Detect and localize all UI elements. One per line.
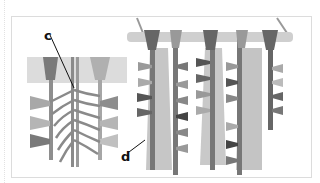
label-d: d — [121, 150, 130, 163]
left-detail — [27, 35, 127, 167]
label-c: c — [44, 29, 52, 42]
right-hanging — [127, 18, 293, 175]
